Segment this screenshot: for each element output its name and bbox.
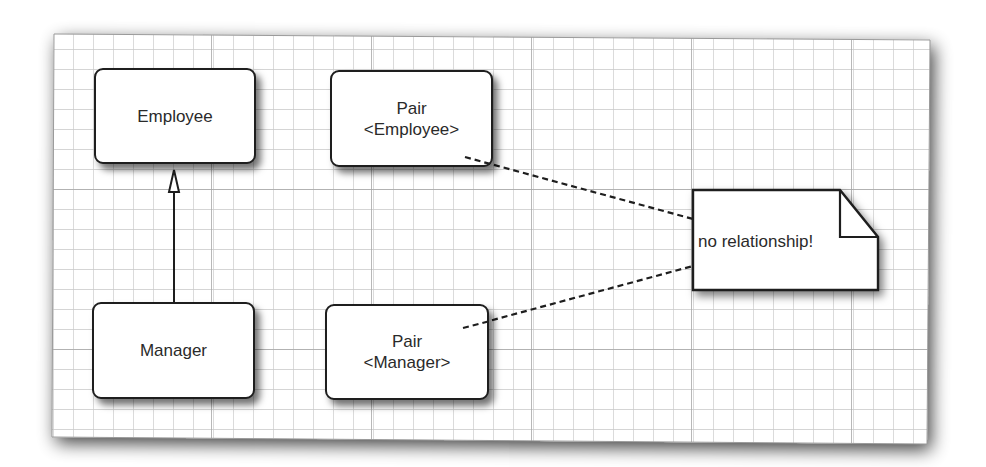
type-parameter: <Manager> (364, 352, 451, 373)
class-name: Manager (140, 340, 207, 361)
class-name: Employee (137, 106, 213, 127)
class-box-pair-manager[interactable]: Pair <Manager> (325, 304, 489, 400)
class-box-pair-employee[interactable]: Pair <Employee> (330, 70, 493, 167)
class-name: Pair (392, 331, 422, 352)
class-box-manager[interactable]: Manager (92, 302, 255, 399)
type-parameter: <Employee> (364, 119, 459, 140)
note-text: no relationship! (698, 232, 813, 252)
class-name: Pair (396, 98, 426, 119)
class-box-employee[interactable]: Employee (94, 68, 256, 164)
